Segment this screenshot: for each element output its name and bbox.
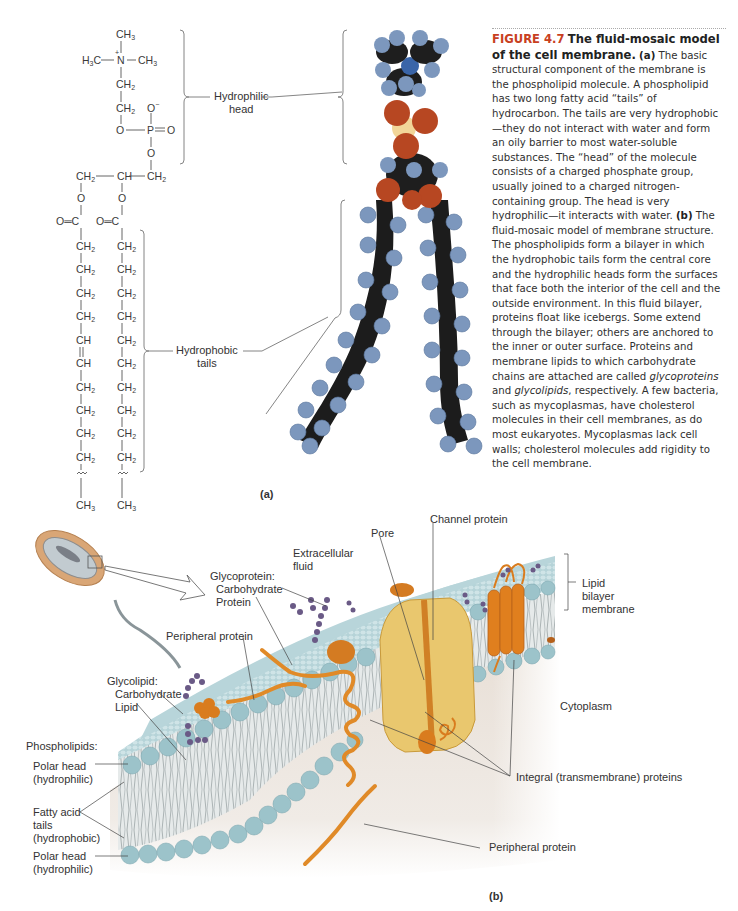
label-polar-head-bottom: Polar head (hydrophilic) xyxy=(33,850,93,876)
channel-protein xyxy=(380,598,475,754)
panel-b-label: (b) xyxy=(489,890,503,902)
label-extracellular-fluid: Extracellular fluid xyxy=(293,547,354,573)
label-polar-head-top: Polar head (hydrophilic) xyxy=(33,760,93,786)
label-peripheral-protein-bottom: Peripheral protein xyxy=(489,841,576,854)
label-glycolipid: Glycolipid: Carbohydrate Lipid xyxy=(107,675,182,714)
peripheral-protein-blob-1 xyxy=(327,640,355,664)
small-protein xyxy=(547,637,555,643)
label-integral-proteins: Integral (transmembrane) proteins xyxy=(516,771,682,784)
peripheral-protein-blob-2 xyxy=(390,583,414,597)
label-peripheral-protein-top: Peripheral protein xyxy=(166,630,253,643)
label-lipid-bilayer-membrane: Lipid bilayer membrane xyxy=(582,577,635,616)
label-phospholipids: Phospholipids: xyxy=(26,740,98,753)
label-pore: Pore xyxy=(371,527,394,540)
label-cytoplasm: Cytoplasm xyxy=(560,700,612,713)
label-channel-protein: Channel protein xyxy=(430,513,508,526)
label-glycoprotein: Glycoprotein: Carbohydrate Protein xyxy=(210,570,283,609)
label-fatty-acid-tails: Fatty acid tails (hydrophobic) xyxy=(33,806,100,845)
